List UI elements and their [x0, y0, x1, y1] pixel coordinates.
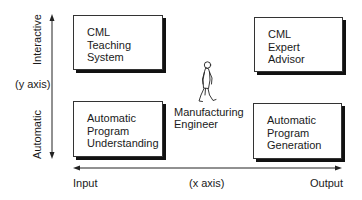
- quadrant-bottom-right-box: Automatic Program Generation: [253, 103, 342, 159]
- box-line: Understanding: [87, 137, 162, 150]
- y-axis-name: (y axis): [15, 78, 50, 90]
- box-line: Generation: [267, 139, 341, 152]
- x-axis-arrow: [73, 166, 342, 171]
- box-line: System: [87, 51, 162, 64]
- walking-man-icon: [199, 62, 216, 102]
- center-label-line: Engineer: [174, 118, 244, 130]
- box-line: Advisor: [268, 53, 342, 66]
- quadrant-bottom-left-box: Automatic Program Understanding: [73, 101, 163, 157]
- box-line: Program: [87, 125, 162, 138]
- x-axis-left-label: Input: [73, 177, 97, 189]
- center-label-line: Manufacturing: [174, 106, 244, 118]
- box-line: CML: [87, 26, 162, 39]
- x-axis-name: (x axis): [189, 177, 224, 189]
- y-axis-bottom-label: Automatic: [31, 110, 43, 159]
- box-line: Automatic: [267, 114, 341, 127]
- quadrant-top-right-box: CML Expert Advisor: [254, 17, 343, 72]
- box-line: Automatic: [87, 112, 162, 125]
- x-axis-right-label: Output: [310, 177, 343, 189]
- center-label: Manufacturing Engineer: [174, 106, 244, 130]
- y-axis-top-label: Interactive: [31, 14, 43, 65]
- quadrant-top-left-box: CML Teaching System: [73, 15, 163, 70]
- box-line: CML: [268, 28, 342, 41]
- box-line: Program: [267, 127, 341, 140]
- box-line: Teaching: [87, 39, 162, 52]
- box-line: Expert: [268, 41, 342, 54]
